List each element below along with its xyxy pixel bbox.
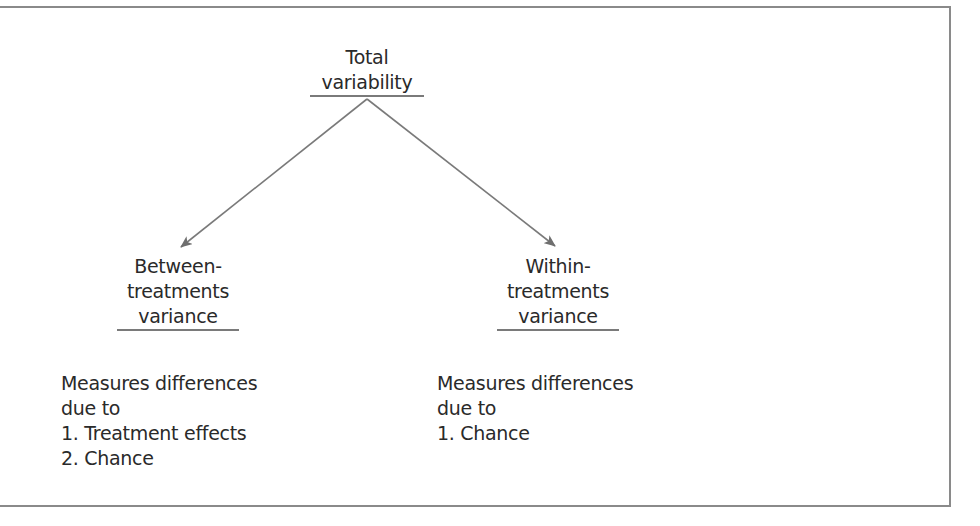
arrow-to-within bbox=[367, 99, 555, 246]
node-within-treatments-variance: Within- treatments variance bbox=[497, 254, 619, 331]
within-desc-line-1: Measures differences bbox=[437, 371, 633, 396]
between-desc-line-2: due to bbox=[61, 396, 257, 421]
within-line-2: treatments bbox=[497, 279, 619, 304]
within-desc-line-2: due to bbox=[437, 396, 633, 421]
node-between-treatments-variance: Between- treatments variance bbox=[117, 254, 239, 331]
between-description: Measures differences due to 1. Treatment… bbox=[61, 371, 257, 471]
within-desc-line-3: 1. Chance bbox=[437, 421, 633, 446]
between-line-1: Between- bbox=[117, 254, 239, 279]
between-desc-line-1: Measures differences bbox=[61, 371, 257, 396]
within-line-3: variance bbox=[497, 304, 619, 331]
between-line-3: variance bbox=[117, 304, 239, 331]
between-line-2: treatments bbox=[117, 279, 239, 304]
root-line-1: Total bbox=[310, 45, 424, 70]
between-desc-line-3: 1. Treatment effects bbox=[61, 421, 257, 446]
arrow-to-between bbox=[181, 99, 367, 247]
root-line-2: variability bbox=[310, 70, 424, 97]
between-desc-line-4: 2. Chance bbox=[61, 446, 257, 471]
within-line-1: Within- bbox=[497, 254, 619, 279]
within-description: Measures differences due to 1. Chance bbox=[437, 371, 633, 446]
root-node-total-variability: Total variability bbox=[310, 45, 424, 97]
